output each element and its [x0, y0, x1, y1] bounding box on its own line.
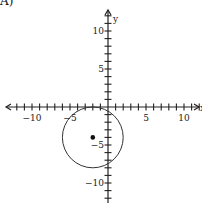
axes	[6, 10, 199, 203]
y-tick-label: 10	[93, 26, 105, 36]
x-tick-label: 5	[143, 113, 149, 123]
y-tick-label: −10	[85, 178, 104, 188]
center-point	[91, 135, 96, 140]
y-axis-label: y	[112, 14, 119, 24]
y-tick-label: 5	[98, 64, 104, 74]
x-tick-label: −10	[23, 113, 42, 123]
circle-graph	[62, 107, 123, 168]
x-tick-label: 10	[178, 113, 190, 123]
x-tick-label: −5	[63, 113, 77, 123]
y-tick-label: −5	[91, 140, 105, 150]
tick-labels: −10−5510105−5−10xy	[23, 14, 203, 188]
x-axis-label: x	[200, 103, 202, 113]
coordinate-plane: −10−5510105−5−10xy	[0, 0, 202, 203]
